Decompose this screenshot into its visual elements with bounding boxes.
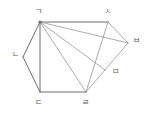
vertex-label-d: ㄷ [35,99,42,107]
diagonal-g-b [40,22,128,43]
vertex-dot-g [38,20,41,23]
hexagon-diagonals [40,22,128,92]
diagonal-s-r [86,22,108,92]
vertex-label-s: ㅅ [104,8,111,16]
hexagon-edges [23,22,128,92]
geometry-figure: ㄱㄴㄷㄹㅁㅂㅅ [0,0,147,122]
diagonal-g-r [40,22,86,92]
vertex-label-n: ㄴ [12,51,19,59]
edge-n-g [23,22,40,57]
vertex-dots [38,20,41,23]
vertex-label-r: ㄹ [82,99,89,107]
edge-m-r [86,70,105,92]
vertex-label-b: ㅂ [133,37,140,45]
vertex-label-g: ㄱ [35,8,42,16]
edge-s-b [108,22,128,43]
vertex-label-m: ㅁ [112,68,119,76]
edge-b-m [105,43,128,70]
edge-d-n [23,57,40,92]
figure-canvas [0,0,147,122]
